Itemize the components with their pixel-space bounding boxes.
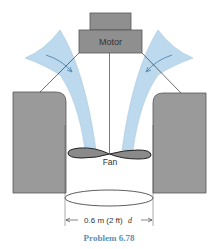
fan-duct-diagram: Motor Fan 0.6 m (2 ft) d Problem 6.78	[0, 0, 218, 249]
outlet-opening	[65, 190, 153, 206]
dimension-value: 0.6 m (2 ft)	[84, 216, 123, 225]
fan-label: Fan	[103, 157, 118, 167]
dimension-symbol: d	[128, 216, 133, 225]
figure-caption: Problem 6.78	[84, 233, 135, 243]
right-wall-block	[153, 93, 206, 193]
dimension-label: 0.6 m (2 ft) d	[84, 216, 133, 225]
motor-label: Motor	[99, 37, 122, 47]
left-wall-block	[13, 92, 66, 193]
motor-top	[90, 13, 131, 30]
